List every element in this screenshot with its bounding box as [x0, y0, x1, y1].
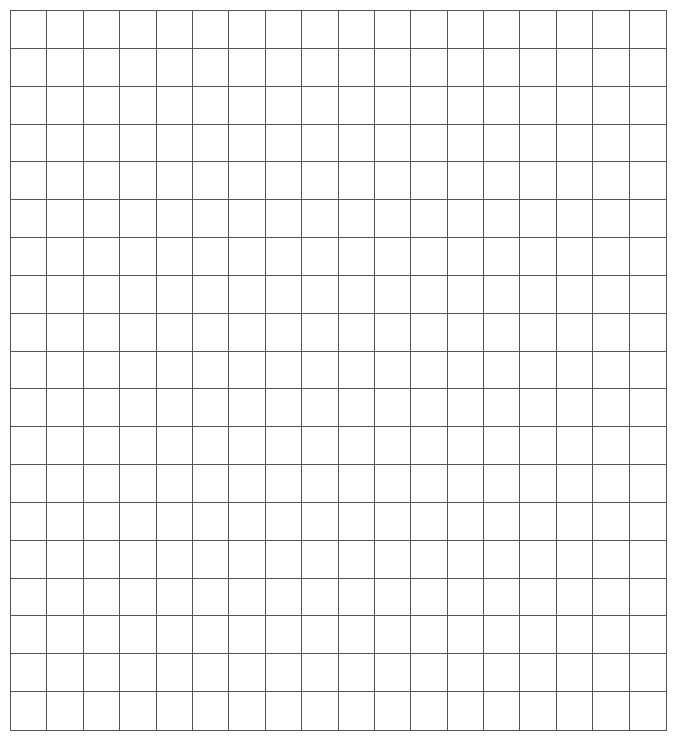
grid-cell: [593, 238, 629, 276]
grid-cell: [630, 314, 666, 352]
grid-cell: [157, 503, 193, 541]
grid-cell: [47, 389, 83, 427]
grid-cell: [157, 314, 193, 352]
grid-cell: [266, 352, 302, 390]
grid-cell: [84, 503, 120, 541]
grid-cell: [157, 238, 193, 276]
grid-cell: [157, 465, 193, 503]
grid-cell: [630, 579, 666, 617]
grid-cell: [302, 49, 338, 87]
grid-cell: [448, 465, 484, 503]
grid-cell: [120, 616, 156, 654]
grid-cell: [47, 616, 83, 654]
grid-cell: [593, 541, 629, 579]
grid-cell: [120, 579, 156, 617]
grid-cell: [193, 389, 229, 427]
grid-cell: [630, 654, 666, 692]
grid-cell: [157, 541, 193, 579]
grid-cell: [302, 276, 338, 314]
grid-cell: [630, 503, 666, 541]
grid-cell: [375, 654, 411, 692]
grid-cell: [484, 541, 520, 579]
grid-cell: [593, 692, 629, 730]
grid-cell: [448, 49, 484, 87]
grid-cell: [11, 579, 47, 617]
grid-cell: [157, 389, 193, 427]
grid-cell: [557, 87, 593, 125]
grid-cell: [630, 162, 666, 200]
grid-cell: [84, 238, 120, 276]
grid-cell: [47, 238, 83, 276]
grid-cell: [266, 11, 302, 49]
grid-cell: [193, 87, 229, 125]
grid-cell: [411, 503, 447, 541]
grid-cell: [157, 11, 193, 49]
grid-cell: [448, 87, 484, 125]
grid-cell: [84, 87, 120, 125]
grid-cell: [520, 276, 556, 314]
grid-cell: [157, 49, 193, 87]
grid-cell: [229, 352, 265, 390]
grid-cell: [411, 11, 447, 49]
grid-cell: [266, 49, 302, 87]
blank-grid: [10, 10, 667, 731]
grid-cell: [520, 579, 556, 617]
grid-cell: [339, 276, 375, 314]
grid-cell: [520, 238, 556, 276]
grid-cell: [448, 389, 484, 427]
grid-cell: [484, 49, 520, 87]
grid-cell: [630, 692, 666, 730]
grid-cell: [484, 238, 520, 276]
grid-cell: [557, 200, 593, 238]
grid-cell: [11, 238, 47, 276]
grid-cell: [557, 314, 593, 352]
grid-cell: [593, 11, 629, 49]
grid-cell: [375, 276, 411, 314]
grid-cell: [120, 238, 156, 276]
grid-cell: [411, 616, 447, 654]
grid-cell: [302, 352, 338, 390]
grid-cell: [193, 465, 229, 503]
grid-cell: [229, 276, 265, 314]
grid-cell: [266, 87, 302, 125]
grid-cell: [448, 200, 484, 238]
grid-cell: [193, 11, 229, 49]
grid-cell: [120, 314, 156, 352]
grid-cell: [375, 579, 411, 617]
grid-cell: [229, 503, 265, 541]
grid-cell: [84, 314, 120, 352]
grid-cell: [229, 616, 265, 654]
grid-cell: [593, 579, 629, 617]
grid-cell: [229, 162, 265, 200]
grid-cell: [448, 692, 484, 730]
grid-cell: [84, 352, 120, 390]
grid-cell: [339, 352, 375, 390]
grid-cell: [484, 579, 520, 617]
grid-cell: [229, 692, 265, 730]
grid-cell: [84, 276, 120, 314]
grid-cell: [593, 87, 629, 125]
grid-cell: [229, 579, 265, 617]
grid-cell: [157, 579, 193, 617]
grid-cell: [339, 87, 375, 125]
grid-cell: [448, 654, 484, 692]
grid-cell: [339, 503, 375, 541]
grid-cell: [375, 87, 411, 125]
grid-cell: [339, 389, 375, 427]
grid-cell: [448, 352, 484, 390]
grid-cell: [630, 427, 666, 465]
grid-cell: [520, 692, 556, 730]
grid-cell: [484, 87, 520, 125]
grid-cell: [557, 654, 593, 692]
grid-cell: [193, 616, 229, 654]
grid-cell: [120, 503, 156, 541]
grid-cell: [593, 125, 629, 163]
grid-cell: [84, 616, 120, 654]
grid-cell: [375, 238, 411, 276]
grid-cell: [120, 427, 156, 465]
grid-cell: [266, 503, 302, 541]
grid-cell: [11, 465, 47, 503]
grid-cell: [520, 87, 556, 125]
grid-cell: [84, 389, 120, 427]
grid-cell: [193, 125, 229, 163]
